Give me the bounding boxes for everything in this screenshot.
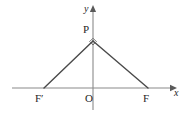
y-axis-arrow-icon xyxy=(90,5,96,12)
segment-f-prime-p xyxy=(44,41,93,88)
point-label-p: P xyxy=(83,24,89,35)
point-label-f-prime: F′ xyxy=(35,93,44,104)
x-axis-label: x xyxy=(174,88,178,98)
y-axis-label: y xyxy=(84,4,88,14)
segment-p-f xyxy=(93,41,148,88)
geometry-canvas xyxy=(0,0,188,123)
origin-label: O xyxy=(85,93,93,104)
geometry-figure: P y F′ O F x xyxy=(0,0,188,123)
point-label-f: F xyxy=(143,93,149,104)
